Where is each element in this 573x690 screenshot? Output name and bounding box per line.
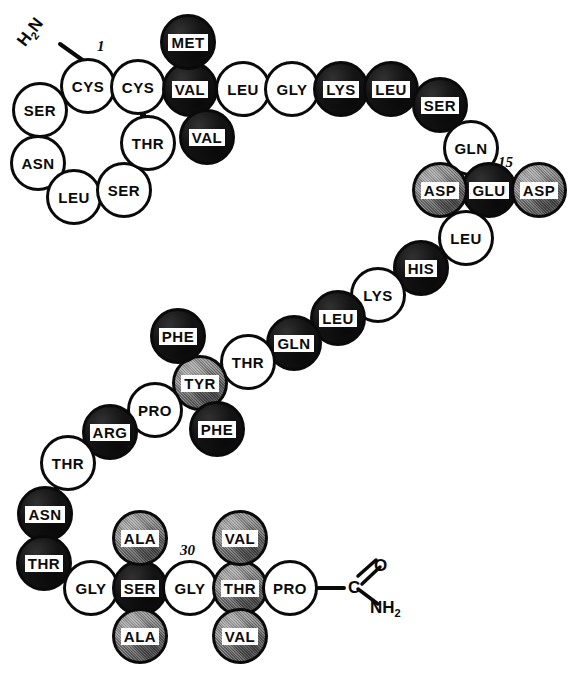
c-terminus-oxygen-label: O	[374, 556, 387, 576]
residue-val[interactable]: VAL	[212, 510, 268, 566]
residue-ser[interactable]: SER	[12, 82, 68, 138]
residue-thr[interactable]: THR	[120, 115, 176, 171]
residue-leu[interactable]: LEU	[46, 169, 102, 225]
residue-label: THR	[52, 456, 84, 471]
residue-label: SER	[121, 580, 159, 597]
residue-ala[interactable]: ALA	[112, 608, 168, 664]
residue-label: VAL	[222, 530, 258, 547]
residue-lys-6[interactable]: LYS	[313, 61, 369, 117]
residue-label: PRO	[273, 581, 307, 596]
residue-label: THR	[25, 555, 63, 572]
residue-label: THR	[221, 580, 259, 597]
residue-label: GLU	[469, 182, 508, 199]
residue-label: CYS	[72, 79, 104, 94]
residue-label: ALA	[121, 530, 159, 547]
peptide-diagram-canvas: CYSCYSVALLEUGLYLYSLEUSERGLNGLULEUHISLYSL…	[0, 0, 573, 690]
residue-label: THR	[132, 136, 164, 151]
residue-label: GLN	[454, 141, 487, 156]
residue-cys-2[interactable]: CYS	[110, 59, 166, 115]
residue-label: ASP	[520, 182, 558, 199]
residue-val[interactable]: VAL	[212, 608, 268, 664]
residue-label: LEU	[372, 81, 410, 98]
residue-label: ALA	[121, 628, 159, 645]
residue-pro-27[interactable]: PRO	[262, 560, 318, 616]
residue-label: SER	[421, 97, 459, 114]
residue-label: GLY	[175, 581, 206, 596]
residue-asn-21[interactable]: ASN	[17, 486, 73, 542]
residue-leu-4[interactable]: LEU	[215, 61, 271, 117]
residue-label: GLY	[277, 82, 308, 97]
position-number-1: 1	[97, 38, 105, 55]
residue-label: ASN	[21, 156, 54, 171]
residue-label: HIS	[405, 260, 438, 277]
residue-gly-23[interactable]: GLY	[63, 560, 119, 616]
residue-label: LEU	[227, 82, 259, 97]
residue-gly-5[interactable]: GLY	[264, 61, 320, 117]
residue-label: VAL	[172, 81, 208, 98]
residue-label: SER	[24, 103, 56, 118]
residue-asp[interactable]: ASP	[412, 162, 468, 218]
residue-cys-1[interactable]: CYS	[60, 58, 116, 114]
residue-asp[interactable]: ASP	[511, 162, 567, 218]
residue-label: ASN	[25, 506, 64, 523]
residue-label: LYS	[323, 81, 358, 98]
c-terminus-amide-label: NH2	[370, 598, 401, 619]
residue-label: SER	[108, 183, 140, 198]
c-terminus-carbon-label: C	[348, 578, 360, 598]
residue-label: ASP	[421, 182, 459, 199]
residue-label: PHE	[159, 328, 197, 345]
residue-label: VAL	[189, 129, 225, 146]
residue-met[interactable]: MET	[160, 14, 216, 70]
residue-label: MET	[168, 34, 207, 51]
residue-label: GLN	[274, 335, 313, 352]
residue-gly-25[interactable]: GLY	[162, 560, 218, 616]
residue-label: GLY	[76, 581, 107, 596]
residue-label: THR	[232, 355, 264, 370]
position-number-15: 15	[498, 154, 513, 171]
residue-val[interactable]: VAL	[179, 109, 235, 165]
residue-label: TYR	[181, 375, 219, 392]
residue-ala[interactable]: ALA	[112, 510, 168, 566]
residue-label: PRO	[138, 403, 172, 418]
residue-phe[interactable]: PHE	[189, 401, 245, 457]
position-number-30: 30	[180, 542, 195, 559]
residue-label: LEU	[319, 310, 357, 327]
residue-label: LEU	[450, 231, 482, 246]
residue-thr-16[interactable]: THR	[220, 334, 276, 390]
residue-label: PHE	[198, 421, 236, 438]
residue-leu-7[interactable]: LEU	[363, 61, 419, 117]
residue-thr-20[interactable]: THR	[40, 435, 96, 491]
residue-label: CYS	[122, 80, 154, 95]
residue-label: ARG	[90, 424, 131, 441]
residue-label: LYS	[363, 288, 392, 303]
residue-label: LEU	[58, 190, 90, 205]
residue-label: VAL	[222, 628, 258, 645]
residue-phe[interactable]: PHE	[150, 308, 206, 364]
